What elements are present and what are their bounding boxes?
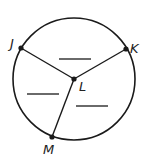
radius-LJ <box>21 48 74 79</box>
point-M <box>49 134 54 139</box>
point-J <box>18 45 23 50</box>
radius-LK <box>74 49 126 79</box>
label-J: J <box>7 36 14 51</box>
point-K <box>123 46 128 51</box>
radius-LM <box>52 79 74 137</box>
label-K: K <box>130 41 140 56</box>
label-M: M <box>43 142 54 157</box>
point-L-center <box>71 76 76 81</box>
circle-diagram: J K L M <box>0 0 145 165</box>
label-L: L <box>79 79 86 94</box>
